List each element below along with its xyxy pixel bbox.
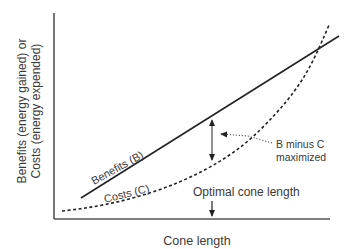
optimal-foraging-diagram: Benefits (B) Costs (C) B minus C maximiz…	[0, 0, 357, 249]
annotation-line2: maximized	[276, 151, 326, 163]
costs-curve	[62, 25, 329, 211]
optimal-label: Optimal cone length	[193, 185, 300, 199]
x-axis-label: Cone length	[163, 234, 230, 248]
costs-label: Costs (C)	[103, 182, 151, 205]
y-axis-label-line2: Costs (energy expended)	[29, 44, 43, 179]
y-axis-label-line1: Benefits (energy gained) or	[15, 39, 29, 184]
benefits-line	[81, 36, 339, 198]
annotation-line1: B minus C	[276, 138, 325, 150]
benefits-label: Benefits (B)	[89, 148, 145, 186]
